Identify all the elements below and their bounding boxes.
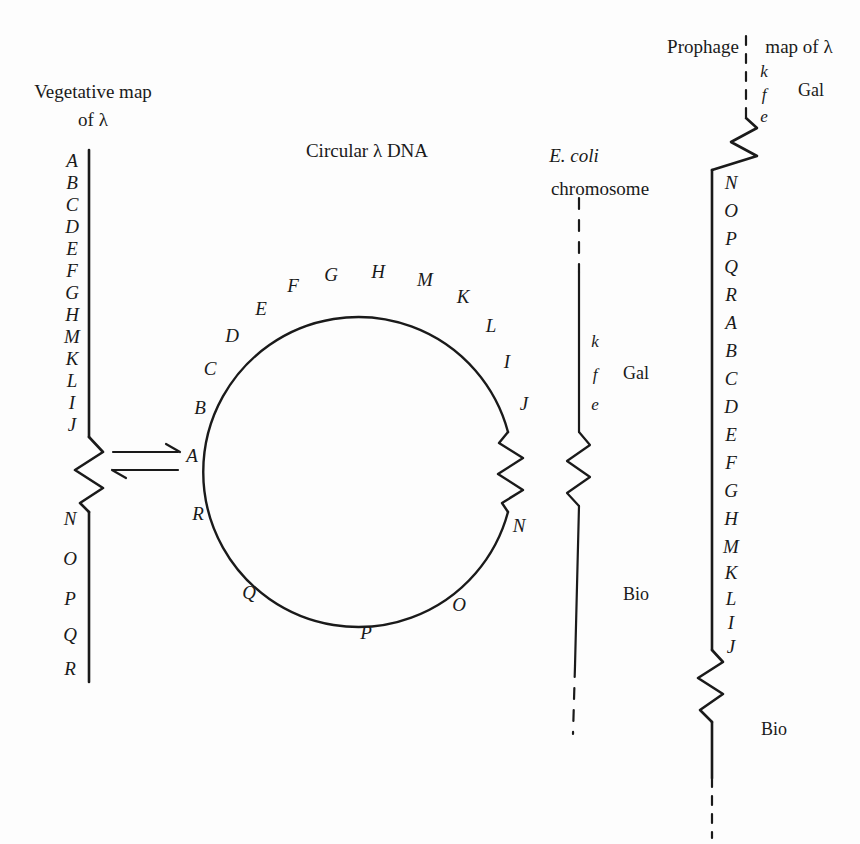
vegetative-gene-m: M <box>64 327 80 346</box>
prophage-gene-l: L <box>726 589 737 608</box>
diagram-lines <box>0 0 860 844</box>
prophage-gene-d: D <box>724 397 738 416</box>
prophage-gene-j: J <box>727 637 735 656</box>
ecoli-title-line2: chromosome <box>551 179 649 198</box>
prophage-gene-e2: E <box>725 425 737 444</box>
circle-gene-p: P <box>360 623 372 642</box>
vegetative-gene-j: J <box>68 415 76 434</box>
vegetative-map-title-line2: of λ <box>78 110 108 129</box>
ecoli-gene-f: f <box>593 366 598 383</box>
vegetative-gene-f: F <box>66 261 78 280</box>
ecoli-line-lower <box>575 506 579 666</box>
circle-gene-o: O <box>452 595 466 614</box>
circle-gene-e: E <box>255 299 267 318</box>
prophage-bio-label: Bio <box>761 720 787 738</box>
vegetative-gene-r: R <box>64 659 76 678</box>
prophage-gene-k: k <box>760 63 768 80</box>
vegetative-gene-i: I <box>69 393 75 412</box>
ecoli-dashed-bottom <box>573 666 575 734</box>
ecoli-bio-label: Bio <box>623 585 649 603</box>
vegetative-gene-h: H <box>65 305 79 324</box>
vegetative-gene-b: B <box>66 173 78 192</box>
prophage-gene-q: Q <box>724 257 738 276</box>
prophage-title-left: Prophage <box>667 37 739 56</box>
prophage-gene-r: R <box>725 285 737 304</box>
vegetative-map-title-line1: Vegetative map <box>34 82 152 101</box>
equilibrium-arrows <box>112 444 180 478</box>
ecoli-gene-e: e <box>591 396 599 413</box>
circle-gene-j: J <box>520 394 528 413</box>
prophage-gene-b: B <box>725 341 737 360</box>
circle-gene-k: K <box>457 287 470 306</box>
circle-gene-b: B <box>194 398 206 417</box>
ecoli-gal-label: Gal <box>623 364 649 382</box>
circle-gene-h: H <box>371 262 385 281</box>
vegetative-gene-e: E <box>66 239 78 258</box>
circle-gene-n: N <box>513 516 526 535</box>
vegetative-gene-c: C <box>66 195 79 214</box>
ecoli-gene-k: k <box>591 333 599 350</box>
prophage-gene-h: H <box>724 509 738 528</box>
ecoli-zigzag <box>567 432 590 506</box>
vegetative-gene-g: G <box>65 283 79 302</box>
circle-gene-f: F <box>287 276 299 295</box>
prophage-zigzag-top <box>712 118 757 170</box>
prophage-gal-label: Gal <box>798 81 824 99</box>
circular-dna-arc <box>203 317 508 627</box>
prophage-gene-g: G <box>724 481 738 500</box>
vegetative-gene-a: A <box>66 151 78 170</box>
vegetative-gene-n: N <box>64 509 77 528</box>
circle-gene-l: L <box>486 316 497 335</box>
prophage-gene-i: I <box>728 613 734 632</box>
circular-dna-title: Circular λ DNA <box>306 141 428 160</box>
circle-gene-r: R <box>192 504 204 523</box>
vegetative-gene-p: P <box>64 589 76 608</box>
vegetative-zigzag <box>75 437 103 512</box>
figure-canvas: Vegetative map of λ A B C D E F G H M K … <box>0 0 860 844</box>
vegetative-gene-k: K <box>66 349 79 368</box>
prophage-gene-f: f <box>762 86 767 103</box>
prophage-gene-m: M <box>723 537 739 556</box>
prophage-gene-k2: K <box>725 563 738 582</box>
circular-zigzag <box>498 432 523 512</box>
circle-gene-c: C <box>204 359 217 378</box>
vegetative-gene-q: Q <box>63 625 77 644</box>
prophage-gene-o: O <box>724 201 738 220</box>
circle-gene-d: D <box>225 326 239 345</box>
vegetative-gene-l: L <box>67 371 78 390</box>
prophage-gene-f2: F <box>725 453 737 472</box>
circle-gene-a: A <box>186 446 198 465</box>
circle-gene-m: M <box>417 270 433 289</box>
prophage-gene-p: P <box>725 229 737 248</box>
prophage-zigzag-bottom <box>698 650 723 722</box>
vegetative-gene-d: D <box>65 217 79 236</box>
prophage-gene-n: N <box>725 173 738 192</box>
prophage-title-right: map of λ <box>765 37 832 56</box>
prophage-gene-a: A <box>725 313 737 332</box>
prophage-gene-c: C <box>725 369 738 388</box>
prophage-gene-e: e <box>760 108 768 125</box>
ecoli-title-line1: E. coli <box>549 146 599 165</box>
circle-gene-q: Q <box>242 583 256 602</box>
circle-gene-i: I <box>504 352 510 371</box>
vegetative-gene-o: O <box>63 549 77 568</box>
circle-gene-g: G <box>324 265 338 284</box>
